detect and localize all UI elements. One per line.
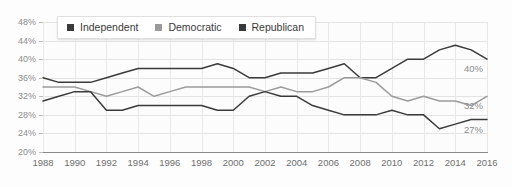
y-tick-mark: [39, 59, 43, 60]
y-tick-label: 20%: [2, 148, 36, 157]
legend-label-republican: Republican: [252, 22, 305, 33]
y-tick-label: 44%: [2, 37, 36, 46]
legend-swatch-republican: [239, 24, 246, 31]
legend-item-republican[interactable]: Republican: [239, 22, 305, 33]
series-lines: [43, 22, 487, 152]
y-tick-label: 40%: [2, 55, 36, 64]
end-label-democratic: 32%: [464, 101, 483, 111]
y-tick-mark: [39, 133, 43, 134]
y-tick-label: 36%: [2, 74, 36, 83]
legend-swatch-independent: [67, 24, 74, 31]
y-tick-label: 32%: [2, 92, 36, 101]
y-tick-mark: [39, 152, 43, 153]
legend-item-independent[interactable]: Independent: [67, 22, 138, 33]
chart-legend[interactable]: Independent Democratic Republican: [57, 16, 316, 39]
end-label-independent: 40%: [464, 64, 483, 74]
legend-item-democratic[interactable]: Democratic: [155, 22, 221, 33]
x-tick-label: 2016: [467, 157, 507, 168]
y-tick-label: 48%: [2, 18, 36, 27]
x-axis-line: [43, 152, 488, 153]
legend-label-independent: Independent: [80, 22, 138, 33]
end-label-republican: 27%: [464, 125, 483, 135]
y-tick-mark: [39, 22, 43, 23]
y-tick-mark: [39, 115, 43, 116]
legend-swatch-democratic: [155, 24, 162, 31]
legend-label-democratic: Democratic: [168, 22, 221, 33]
y-tick-mark: [39, 96, 43, 97]
y-tick-label: 28%: [2, 111, 36, 120]
plot-area: [43, 22, 487, 152]
y-tick-label: 24%: [2, 129, 36, 138]
y-tick-mark: [39, 78, 43, 79]
party-identification-line-chart: 48%44%40%36%32%28%24%20% 198819901992199…: [0, 0, 512, 187]
y-tick-mark: [39, 41, 43, 42]
series-line-independent: [43, 45, 487, 82]
gridline-vertical: [487, 22, 488, 152]
